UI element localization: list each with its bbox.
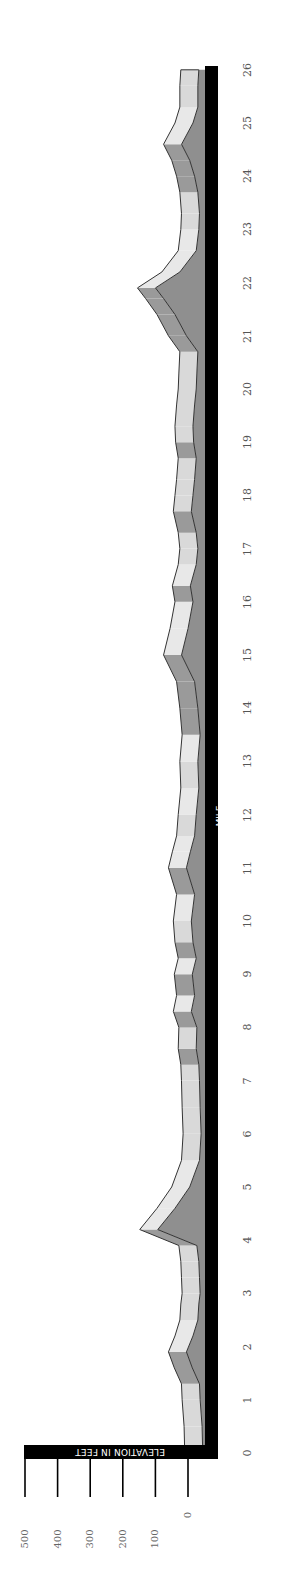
y-tick-label: 0: [181, 1500, 195, 1530]
ribbon-top-segment: [178, 229, 199, 250]
ribbon-top-segment: [181, 1261, 200, 1277]
mile-tick-label: 24: [241, 164, 255, 188]
ribbon-top-segment: [181, 1293, 200, 1304]
ribbon-top-segment: [173, 495, 193, 511]
mile-tick-label: 13: [241, 749, 255, 773]
ribbon-top-segment: [172, 586, 193, 602]
ribbon-top-segment: [181, 1384, 200, 1400]
y-axis-ticks: [25, 1459, 188, 1497]
ribbon-top-segment: [180, 1304, 199, 1320]
mile-tick-label: 19: [241, 430, 255, 454]
mile-tick-label: 22: [241, 271, 255, 295]
ribbon-top-segment: [175, 479, 195, 495]
ribbon-top-segment: [179, 352, 198, 373]
mile-tick-label: 17: [241, 537, 255, 561]
x-axis-bar: [205, 66, 218, 1459]
mile-tick-label: 2: [241, 1335, 255, 1359]
mile-tick-label: 6: [241, 1122, 255, 1146]
mile-tick-label: 21: [241, 324, 255, 348]
ribbon-top-segment: [180, 708, 200, 735]
mile-tick-label: 10: [241, 909, 255, 933]
mile-tick-label: 20: [241, 377, 255, 401]
mile-tick-label: 5: [241, 1175, 255, 1199]
mile-tick-label: 8: [241, 1015, 255, 1039]
y-tick-label: 400: [51, 1524, 65, 1554]
ribbon-top-segment: [177, 389, 197, 405]
ribbon-top-segment: [181, 213, 200, 229]
mile-tick-label: 0: [241, 1441, 255, 1465]
mile-tick-label: 7: [241, 1069, 255, 1093]
mile-tick-label: 14: [241, 696, 255, 720]
ribbon-top-segment: [178, 1049, 199, 1065]
ribbon-top-segment: [181, 1134, 201, 1161]
mile-tick-label: 25: [241, 111, 255, 135]
ribbon-top-segment: [177, 815, 197, 836]
ribbon-top-segment: [173, 921, 193, 942]
mile-tick-label: 23: [241, 217, 255, 241]
ribbon-top-segment: [176, 442, 197, 458]
y-tick-label: 500: [18, 1524, 32, 1554]
ribbon-top-segment: [180, 192, 200, 213]
x-axis-title: MILE: [214, 796, 226, 836]
mile-tick-label: 3: [241, 1281, 255, 1305]
mile-tick-label: 1: [241, 1388, 255, 1412]
ribbon-top-segment: [182, 1400, 202, 1427]
y-axis-title: ELEVATION IN FEET: [30, 1446, 210, 1458]
y-tick-label: 200: [116, 1524, 130, 1554]
ribbon-top-segment: [175, 405, 195, 426]
mile-tick-label: 4: [241, 1228, 255, 1252]
ribbon-top-segment: [180, 86, 198, 107]
mile-tick-label: 11: [241, 856, 255, 880]
y-tick-label: 300: [83, 1524, 97, 1554]
mile-tick-label: 15: [241, 643, 255, 667]
ribbon-top-segment: [178, 549, 198, 565]
y-tick-label: 100: [148, 1524, 162, 1554]
ribbon-top-segment: [178, 373, 197, 389]
ribbon-top-segment: [178, 1027, 197, 1048]
ribbon-top-segment: [177, 458, 197, 479]
mile-tick-label: 18: [241, 483, 255, 507]
mile-tick-label: 26: [241, 58, 255, 82]
elevation-ribbon: [137, 70, 205, 1453]
ribbon-top-segment: [182, 1107, 201, 1134]
ribbon-top-segment: [175, 426, 194, 442]
ribbon-top-segment: [179, 1246, 199, 1262]
ribbon-top-segment: [174, 974, 194, 995]
ribbon-top-segment: [181, 1065, 200, 1081]
ribbon-top-segment: [181, 1277, 200, 1293]
ribbon-top-segment: [180, 70, 199, 86]
ribbon-top-segment: [180, 735, 200, 762]
elevation-profile-chart: [0, 0, 281, 1588]
mile-tick-label: 12: [241, 803, 255, 827]
mile-tick-label: 9: [241, 962, 255, 986]
ribbon-top-segment: [178, 533, 198, 549]
mile-tick-label: 16: [241, 590, 255, 614]
ribbon-top-segment: [180, 761, 199, 788]
ribbon-top-segment: [178, 788, 199, 815]
ribbon-top-segment: [181, 1081, 200, 1108]
